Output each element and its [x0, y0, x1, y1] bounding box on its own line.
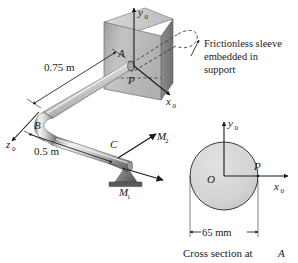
callout-line-1: Frictionless sleeve: [204, 38, 282, 49]
point-a-label: A: [117, 47, 125, 59]
support-triangle: [115, 166, 137, 182]
section-caption-prefix: Cross section at: [183, 247, 253, 259]
y0-axis-sub: 0: [145, 13, 149, 21]
section-caption-point: A: [277, 247, 285, 259]
section-x0-sub: 0: [281, 187, 285, 195]
moment-2-sub: 2: [165, 137, 169, 145]
z0-axis-sub: 0: [12, 145, 16, 153]
dimension-0-5m-label: 0.5 m: [34, 145, 60, 157]
dimension-0-75m-label: 0.75 m: [44, 61, 75, 73]
section-diameter-label: 65 mm: [202, 227, 231, 238]
plate-side-face: [161, 19, 173, 100]
callout-line-2: embedded in: [204, 51, 259, 62]
section-point-p-marker: [257, 175, 260, 178]
moment-2-arrow: [118, 134, 156, 158]
section-center-label: O: [207, 173, 215, 185]
section-point-p-label: P: [253, 160, 261, 172]
support-plate: [104, 8, 173, 100]
section-x0-label: x: [273, 180, 279, 192]
callout-line-3: support: [204, 64, 236, 75]
mechanics-figure: y 0 x 0 z 0 A P B C 0.75 m 0.5 m M 2 M 1: [0, 0, 298, 263]
pipe-bc-highlight: [56, 139, 130, 163]
point-c-label: C: [110, 138, 118, 150]
z0-axis-label: z: [5, 138, 11, 150]
point-p-label: P: [127, 74, 135, 86]
x0-axis-label: x: [165, 95, 171, 107]
figure-canvas: y 0 x 0 z 0 A P B C 0.75 m 0.5 m M 2 M 1: [0, 0, 298, 263]
moment-1-sub: 1: [127, 193, 131, 201]
plate-front-face: [104, 22, 161, 100]
y0-axis-label: y: [137, 6, 143, 18]
x0-axis-sub: 0: [173, 102, 177, 110]
point-b-label: B: [34, 119, 41, 131]
section-y0-label: y: [227, 117, 233, 129]
section-y0-sub: 0: [235, 124, 239, 132]
sleeve-cap-dashed: [176, 30, 197, 47]
